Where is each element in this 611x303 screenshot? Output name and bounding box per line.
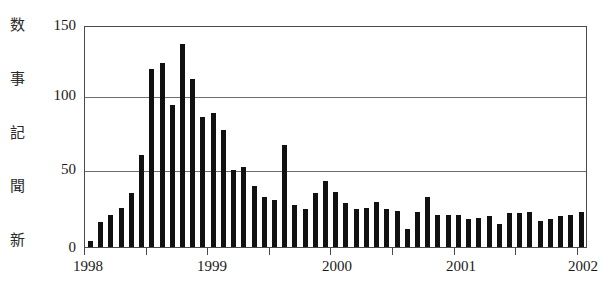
y-tick-label-50: 50 [36, 162, 76, 177]
bar [446, 215, 451, 247]
bar [160, 63, 165, 247]
bar [129, 193, 134, 247]
bar [384, 209, 389, 247]
y-tick-label-100: 100 [36, 88, 76, 103]
bar [507, 213, 512, 247]
bar [282, 145, 287, 247]
bar [425, 197, 430, 247]
bar [354, 209, 359, 247]
bar [364, 208, 369, 247]
bar [252, 186, 257, 247]
plot-area [84, 26, 587, 248]
x-tick [392, 248, 393, 255]
bar [190, 79, 195, 247]
bar [88, 241, 93, 247]
x-tick [146, 248, 147, 255]
bar [313, 193, 318, 247]
bar [548, 219, 553, 247]
bar [272, 200, 277, 247]
x-tick-label-2000: 2000 [307, 258, 367, 275]
bar [170, 105, 175, 247]
x-tick [515, 248, 516, 255]
x-tick-label-2002: 2002 [553, 258, 611, 275]
x-tick [207, 248, 208, 255]
bar [466, 219, 471, 247]
y-tick-label-150: 150 [36, 18, 76, 33]
y-axis-title-char-3: 聞 [10, 179, 25, 194]
bar [527, 212, 532, 247]
bar [374, 202, 379, 247]
y-axis-title-char-1: 事 [10, 72, 25, 87]
newspaper-article-bar-chart: 数 事 記 聞 新 150 100 50 0 1998 1999 2000 20… [0, 0, 611, 303]
bar [476, 218, 481, 247]
x-tick [84, 248, 85, 255]
bar [98, 222, 103, 247]
bar [292, 205, 297, 247]
bar [262, 197, 267, 247]
x-tick [454, 248, 455, 255]
bar [221, 130, 226, 247]
y-axis-title-char-4: 新 [10, 233, 25, 248]
bar [231, 170, 236, 247]
bar [211, 113, 216, 247]
y-axis-title-char-2: 記 [10, 126, 25, 141]
bar [415, 212, 420, 247]
bar [395, 211, 400, 248]
bar [558, 216, 563, 247]
y-tick-label-0: 0 [36, 240, 76, 255]
x-tick [269, 248, 270, 255]
bar [180, 44, 185, 247]
bar [343, 203, 348, 247]
x-tick-label-1998: 1998 [58, 258, 118, 275]
bar [435, 215, 440, 247]
bar [323, 181, 328, 247]
bar [119, 208, 124, 247]
x-tick [330, 248, 331, 255]
y-axis-title: 数 事 記 聞 新 [4, 18, 30, 248]
x-tick-label-2001: 2001 [431, 258, 491, 275]
bar [405, 229, 410, 247]
bar [200, 117, 205, 247]
y-axis-title-char-0: 数 [10, 18, 25, 33]
x-tick-label-1999: 1999 [182, 258, 242, 275]
bar [568, 215, 573, 247]
x-axis-tick-labels: 1998 1999 2000 2001 2002 [0, 258, 611, 284]
bar [149, 69, 154, 247]
bar [241, 167, 246, 247]
x-tick [577, 248, 578, 255]
x-axis-ticks [84, 248, 587, 255]
bar [517, 213, 522, 247]
bar [497, 224, 502, 247]
bar [456, 215, 461, 247]
bar [108, 215, 113, 247]
bar [487, 216, 492, 247]
bar [579, 212, 584, 247]
bar [303, 209, 308, 247]
bar [333, 192, 338, 247]
bar-series [85, 27, 586, 247]
bar [139, 155, 144, 247]
bar [538, 221, 543, 247]
